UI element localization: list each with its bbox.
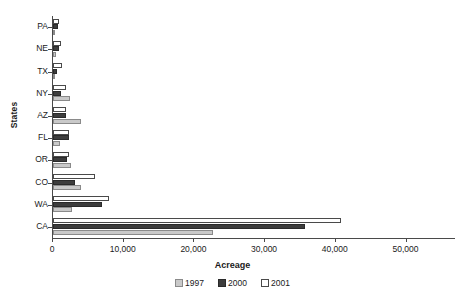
bar-NE-2001 <box>53 41 61 46</box>
x-tick <box>193 238 194 242</box>
bar-FL-2001 <box>53 130 69 135</box>
bar-OR-1997 <box>53 163 71 168</box>
x-tick-label: 50,000 <box>393 244 419 254</box>
bar-CO-2000 <box>53 180 75 185</box>
bar-FL-2000 <box>53 135 69 140</box>
bar-AZ-2001 <box>53 107 66 112</box>
chart-legend: 199720002001 <box>0 278 465 288</box>
legend-label: 1997 <box>185 278 204 288</box>
y-tick <box>48 49 52 50</box>
x-tick-label: 40,000 <box>322 244 348 254</box>
bar-NY-1997 <box>53 96 70 101</box>
bar-TX-2000 <box>53 69 57 74</box>
y-tick-label: AZ <box>37 110 48 120</box>
x-tick <box>123 238 124 242</box>
y-tick <box>48 27 52 28</box>
bar-WA-2000 <box>53 202 102 207</box>
bar-PA-2000 <box>53 24 58 29</box>
bar-CO-2001 <box>53 174 95 179</box>
bar-CA-2001 <box>53 218 341 223</box>
x-tick <box>264 238 265 242</box>
y-tick <box>48 72 52 73</box>
y-tick-label: WA <box>35 199 48 209</box>
bar-TX-2001 <box>53 63 62 68</box>
x-tick-label: 20,000 <box>180 244 206 254</box>
bar-WA-1997 <box>53 207 72 212</box>
bar-FL-1997 <box>53 141 60 146</box>
bar-WA-2001 <box>53 196 109 201</box>
legend-swatch-2001 <box>261 279 269 287</box>
y-tick-label: FL <box>38 132 48 142</box>
bar-PA-1997 <box>53 30 55 35</box>
x-tick <box>335 238 336 242</box>
bar-CO-1997 <box>53 185 81 190</box>
bar-NY-2000 <box>53 91 61 96</box>
x-tick-label: 10,000 <box>110 244 136 254</box>
bar-chart: States 010,00020,00030,00040,00050,000 P… <box>0 0 465 308</box>
x-axis-title: Acreage <box>0 260 465 270</box>
x-tick <box>406 238 407 242</box>
bar-NY-2001 <box>53 85 66 90</box>
y-tick-label: CO <box>35 177 48 187</box>
y-tick <box>48 138 52 139</box>
y-tick-label: PA <box>37 21 48 31</box>
y-tick-label: TX <box>37 66 48 76</box>
legend-item-2001: 2001 <box>261 278 290 288</box>
y-tick-label: NE <box>36 43 48 53</box>
y-tick <box>48 227 52 228</box>
bar-CA-2000 <box>53 224 305 229</box>
y-tick <box>48 160 52 161</box>
legend-label: 2001 <box>271 278 290 288</box>
bar-NE-2000 <box>53 46 59 51</box>
y-tick-label: CA <box>36 221 48 231</box>
x-tick-label: 30,000 <box>251 244 277 254</box>
legend-swatch-2000 <box>218 279 226 287</box>
y-tick <box>48 205 52 206</box>
x-tick-label: 0 <box>50 244 55 254</box>
legend-item-2000: 2000 <box>218 278 247 288</box>
legend-label: 2000 <box>228 278 247 288</box>
y-tick <box>48 183 52 184</box>
bar-OR-2000 <box>53 157 67 162</box>
y-tick-label: OR <box>35 154 48 164</box>
y-axis-title: States <box>9 85 19 145</box>
plot-area: 010,00020,00030,00040,00050,000 PANETXNY… <box>52 16 455 238</box>
legend-swatch-1997 <box>175 279 183 287</box>
bar-TX-1997 <box>53 74 55 79</box>
y-tick-label: NY <box>36 88 48 98</box>
x-axis-line <box>52 238 455 239</box>
bar-NE-1997 <box>53 52 56 57</box>
y-tick <box>48 116 52 117</box>
y-tick <box>48 94 52 95</box>
bar-OR-2001 <box>53 152 69 157</box>
bar-AZ-1997 <box>53 119 81 124</box>
legend-item-1997: 1997 <box>175 278 204 288</box>
bar-CA-1997 <box>53 230 213 235</box>
bar-PA-2001 <box>53 19 59 24</box>
x-tick <box>52 238 53 242</box>
bar-AZ-2000 <box>53 113 66 118</box>
